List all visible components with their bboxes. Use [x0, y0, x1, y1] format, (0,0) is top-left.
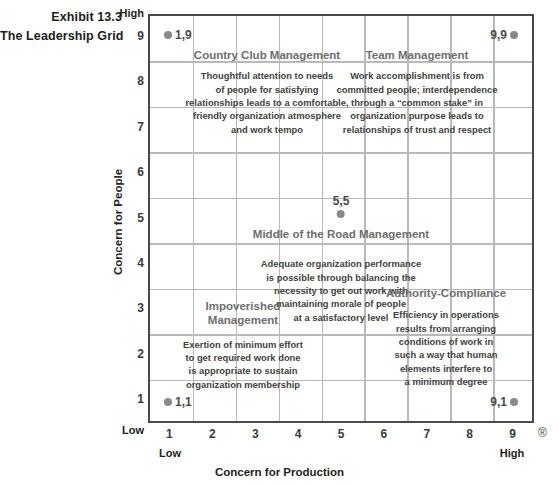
point-marker-icon	[164, 398, 172, 406]
quadrant-body: Efficiency in operations results from ar…	[366, 308, 526, 388]
data-point-1-1: 1,1	[164, 395, 192, 409]
y-axis-low-label: Low	[110, 424, 144, 436]
exhibit-number: Exhibit 13.3	[0, 8, 122, 27]
quadrant-body-line: such a way that human	[366, 348, 526, 361]
x-axis-low-label: Low	[150, 447, 190, 459]
data-point-label: 1,9	[175, 28, 192, 42]
point-marker-icon	[510, 398, 518, 406]
quadrant-body-line: conditions of work in	[366, 335, 526, 348]
y-axis-tick-label: 9	[110, 29, 144, 43]
data-point-1-9: 1,9	[164, 28, 192, 42]
quadrant-body: Exertion of minimum effort to get requir…	[158, 338, 328, 391]
registered-trademark-icon: ®	[538, 427, 547, 439]
quadrant-body-line: organization purpose leads to	[308, 109, 526, 122]
y-axis-tick-label: 2	[110, 347, 144, 361]
point-marker-icon	[510, 31, 518, 39]
quadrant-body-line: elements interfere to	[366, 362, 526, 375]
data-point-5-5: 5,5	[333, 194, 350, 218]
leadership-grid-plot: 1,9 9,9 5,5 1,1 9,1 Country Club Managem…	[148, 14, 534, 423]
quadrant-body-line: to get required work done	[158, 351, 328, 364]
data-point-9-9: 9,9	[490, 28, 518, 42]
x-axis-tick-label: 6	[369, 427, 399, 441]
y-axis-high-label: High	[110, 7, 144, 19]
quadrant-body-line: relationships of trust and respect	[308, 123, 526, 136]
x-axis-tick-label: 1	[154, 427, 184, 441]
y-axis-tick-label: 3	[110, 301, 144, 315]
quadrant-body-line: results from arranging	[366, 322, 526, 335]
y-axis-title: Concern for People	[112, 169, 124, 275]
quadrant-body: Work accomplishment is from committed pe…	[308, 69, 526, 136]
quadrant-body-line: a minimum degree	[366, 375, 526, 388]
x-axis-tick-label: 5	[326, 427, 356, 441]
quadrant-body-line: Adequate organization performance	[216, 257, 466, 270]
x-axis-high-label: High	[492, 447, 532, 459]
exhibit-caption: Exhibit 13.3 The Leadership Grid	[0, 8, 122, 47]
x-axis-tick-label: 8	[455, 427, 485, 441]
x-axis-tick-label: 7	[412, 427, 442, 441]
data-point-label: 9,1	[490, 395, 507, 409]
x-axis-title: Concern for Production	[0, 466, 559, 478]
y-axis-tick-label: 8	[110, 74, 144, 88]
quadrant-body-line: Work accomplishment is from	[308, 69, 526, 82]
grid-line-horizontal	[150, 152, 532, 153]
quadrant-body-line: Efficiency in operations	[366, 308, 526, 321]
y-axis-tick-label: 1	[110, 392, 144, 406]
quadrant-body-line: is appropriate to sustain	[158, 364, 328, 377]
data-point-label: 5,5	[333, 194, 350, 208]
quadrant-body-line: organization membership	[158, 378, 328, 391]
quadrant-title: Team Management	[308, 48, 526, 62]
y-axis-tick-label: 7	[110, 120, 144, 134]
quadrant-impoverished-management: Impoverished Management Exertion of mini…	[158, 299, 328, 391]
data-point-label: 1,1	[175, 395, 192, 409]
quadrant-title: Authority-Compliance	[366, 286, 526, 300]
quadrant-team-management: Team Management Work accomplishment is f…	[308, 48, 526, 136]
exhibit-title: The Leadership Grid	[0, 27, 122, 46]
point-marker-icon	[164, 31, 172, 39]
quadrant-title: Middle of the Road Management	[216, 227, 466, 241]
point-marker-icon	[337, 210, 345, 218]
quadrant-body-line: Exertion of minimum effort	[158, 338, 328, 351]
x-axis-tick-label: 3	[240, 427, 270, 441]
quadrant-title: Impoverished Management	[188, 299, 298, 328]
data-point-9-1: 9,1	[490, 395, 518, 409]
quadrant-authority-compliance: Authority-Compliance Efficiency in opera…	[366, 286, 526, 388]
quadrant-body-line: committed people; interdependence	[308, 83, 526, 96]
data-point-label: 9,9	[490, 28, 507, 42]
x-axis-tick-label: 9	[498, 427, 528, 441]
quadrant-body-line: is possible through balancing the	[216, 271, 466, 284]
x-axis-tick-label: 4	[283, 427, 313, 441]
x-axis-tick-label: 2	[197, 427, 227, 441]
quadrant-body-line: through a “common stake” in	[308, 96, 526, 109]
